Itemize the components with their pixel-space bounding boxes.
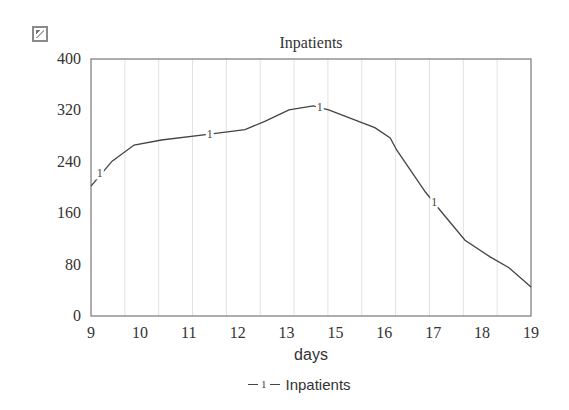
y-tick-label: 80 [65,256,81,273]
y-tick-label: 400 [57,50,81,67]
series-marker: 1 [97,166,103,180]
legend: 1 Inpatients [248,375,351,393]
x-tick-label: 16 [376,324,392,341]
x-tick-label: 10 [132,324,148,341]
y-axis-labels: 080160240320400 [57,50,81,324]
legend-label: Inpatients [286,376,351,393]
y-tick-label: 160 [57,204,81,221]
x-tick-label: 17 [425,324,441,341]
series-inpatients: 1111 [91,100,531,288]
plot-area [91,59,531,316]
x-axis-labels: 9101112131516171819 [87,324,539,341]
y-tick-label: 0 [73,307,81,324]
legend-line-icon: 1 [248,378,280,390]
x-tick-label: 11 [181,324,196,341]
vertical-gridlines [125,59,497,316]
x-tick-label: 9 [87,324,95,341]
x-tick-label: 15 [327,324,343,341]
x-tick-label: 13 [279,324,295,341]
y-tick-label: 320 [57,101,81,118]
series-marker: 1 [207,127,213,141]
series-marker: 1 [317,100,323,114]
x-axis-title: days [0,346,569,364]
x-tick-label: 19 [523,324,539,341]
y-tick-label: 240 [57,153,81,170]
series-marker: 1 [431,195,437,209]
x-tick-label: 18 [474,324,490,341]
series-line [91,106,531,287]
x-tick-label: 12 [230,324,246,341]
